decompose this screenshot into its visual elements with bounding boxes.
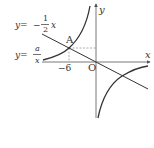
coordinate-diagram: x y O A −6 y= − 1 2 x y= a x [0, 0, 154, 148]
hyperbola-branch-upper-left [43, 6, 90, 60]
svg-text:x: x [51, 20, 56, 30]
point-a-x-value-label: −6 [58, 63, 72, 73]
svg-text:−: − [33, 20, 41, 30]
svg-text:x: x [35, 56, 40, 65]
svg-text:y=: y= [14, 20, 28, 30]
y-axis-label: y [98, 4, 105, 15]
svg-text:2: 2 [43, 25, 48, 34]
origin-label: O [88, 62, 96, 73]
line-equation-label: y= − 1 2 x [14, 14, 56, 34]
svg-text:1: 1 [43, 14, 48, 23]
svg-text:y=: y= [14, 50, 28, 60]
svg-text:a: a [35, 44, 40, 53]
hyperbola-branch-lower-right [98, 66, 148, 118]
point-a-label: A [65, 34, 74, 45]
x-axis-label: x [145, 49, 151, 60]
hyperbola-equation-label: y= a x [14, 44, 41, 65]
